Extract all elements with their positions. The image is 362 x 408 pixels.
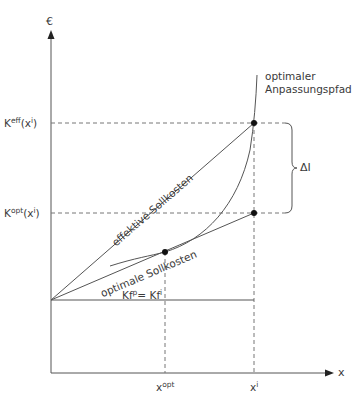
point-tangent (162, 249, 168, 255)
fixed-cost-label: Kfp= Kfi (122, 289, 162, 301)
x-i-label: xi (250, 381, 258, 393)
y-axis-label: € (46, 16, 53, 27)
x-opt-label: xopt (156, 381, 175, 393)
adjustment-path-curve (110, 75, 257, 266)
path-label-line2: Anpassungspfad (265, 84, 352, 95)
k-opt-label: Kopt(xi) (4, 207, 40, 219)
diagram-canvas (0, 0, 362, 408)
point-k-eff (251, 120, 257, 126)
point-k-opt (251, 210, 257, 216)
delta-label: ΔI (300, 162, 311, 173)
optimal-cost-line (51, 213, 254, 300)
delta-brace (285, 123, 297, 213)
k-eff-label: Keff(xi) (4, 117, 37, 129)
y-axis-arrow-icon (48, 30, 55, 39)
path-label-line1: optimaler (265, 71, 315, 82)
x-axis-arrow-icon (325, 370, 334, 377)
x-axis-label: x (338, 367, 345, 378)
